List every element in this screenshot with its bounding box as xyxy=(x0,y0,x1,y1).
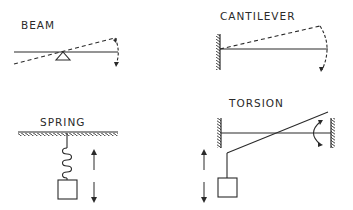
cantilever-panel xyxy=(216,26,328,72)
torsion-mass-block xyxy=(218,178,237,197)
beam-panel xyxy=(14,38,119,67)
torsion-label: TORSION xyxy=(229,98,284,109)
cantilever-deflected-line xyxy=(220,26,320,49)
diagram-canvas xyxy=(0,0,353,210)
arrowhead-icon xyxy=(114,62,119,67)
spring-mass-block xyxy=(58,180,77,199)
arrowhead-icon xyxy=(318,142,323,147)
beam-label: BEAM xyxy=(21,20,55,31)
torsion-panel xyxy=(204,112,335,200)
ceiling-hatch xyxy=(18,133,118,136)
spring-label: SPRING xyxy=(40,117,85,128)
arrowhead-icon xyxy=(319,67,324,72)
cantilever-swing-arc xyxy=(320,26,327,70)
spring-panel xyxy=(18,132,118,200)
cantilever-label: CANTILEVER xyxy=(220,11,295,22)
coil-spring-icon xyxy=(63,148,72,178)
